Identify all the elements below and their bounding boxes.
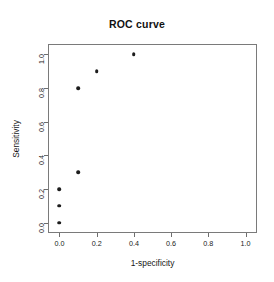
page-title: ROC curve	[0, 18, 274, 30]
y-axis-title: Sensitivity	[10, 44, 22, 233]
y-axis-tick-label: 0.2	[37, 189, 46, 199]
x-axis-tick-label: 0.6	[166, 239, 176, 248]
y-axis-tick-label: 1.0	[37, 54, 46, 64]
x-axis-title: 1-specificity	[48, 258, 257, 268]
x-axis-tick	[208, 233, 209, 237]
y-axis-tick-label: 0.0	[37, 223, 46, 233]
y-axis-tick-label: 0.8	[37, 88, 46, 98]
y-axis-tick-label: 0.6	[37, 122, 46, 132]
x-axis-tick-label: 0.4	[129, 239, 139, 248]
x-axis-tick	[246, 233, 247, 237]
x-axis-tick	[134, 233, 135, 237]
x-axis-tick-label: 0.2	[92, 239, 102, 248]
x-axis-tick-label: 0.0	[54, 239, 64, 248]
x-axis-tick-label: 0.8	[203, 239, 213, 248]
roc-curve-plot: ROC curve 1-specificity Sensitivity 0.00…	[0, 0, 274, 282]
y-axis-title-text: Sensitivity	[11, 120, 21, 158]
x-axis-tick-label: 1.0	[241, 239, 251, 248]
plot-frame	[48, 44, 257, 233]
y-axis-tick-label: 0.4	[37, 155, 46, 165]
x-axis-tick	[59, 233, 60, 237]
x-axis-tick	[97, 233, 98, 237]
x-axis-tick	[171, 233, 172, 237]
